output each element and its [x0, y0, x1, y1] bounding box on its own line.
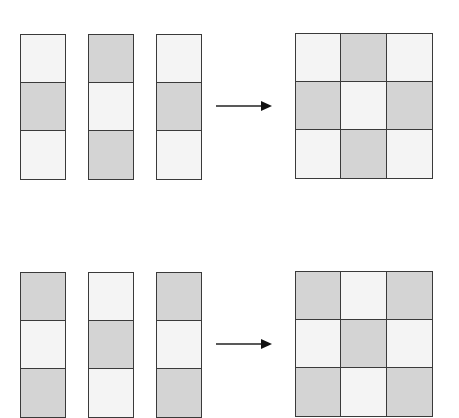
- dark-cell: [89, 35, 133, 83]
- light-cell: [341, 82, 386, 130]
- light-cell: [387, 130, 432, 178]
- strip-column-1-2: [88, 34, 134, 180]
- strip-column-1-3: [156, 34, 202, 180]
- arrow-right-icon: [215, 337, 275, 351]
- light-cell: [341, 368, 386, 416]
- dark-cell: [157, 273, 201, 321]
- dark-cell: [157, 83, 201, 131]
- light-cell: [157, 321, 201, 369]
- dark-cell: [21, 369, 65, 417]
- light-cell: [21, 35, 65, 83]
- dark-cell: [89, 131, 133, 179]
- dark-cell: [296, 368, 341, 416]
- dark-cell: [341, 130, 386, 178]
- dark-cell: [387, 82, 432, 130]
- dark-cell: [21, 273, 65, 321]
- strip-column-2-2: [88, 272, 134, 418]
- dark-cell: [296, 82, 341, 130]
- dark-cell: [21, 83, 65, 131]
- result-grid-1: [295, 33, 433, 179]
- dark-cell: [341, 34, 386, 82]
- dark-cell: [89, 321, 133, 369]
- dark-cell: [296, 272, 341, 320]
- dark-cell: [387, 368, 432, 416]
- dark-cell: [157, 369, 201, 417]
- strip-column-2-1: [20, 272, 66, 418]
- arrow-right-icon: [215, 99, 275, 113]
- light-cell: [21, 321, 65, 369]
- light-cell: [341, 272, 386, 320]
- light-cell: [296, 320, 341, 368]
- result-grid-2: [295, 271, 433, 417]
- light-cell: [387, 34, 432, 82]
- strip-column-2-3: [156, 272, 202, 418]
- dark-cell: [387, 272, 432, 320]
- light-cell: [89, 273, 133, 321]
- light-cell: [157, 131, 201, 179]
- light-cell: [296, 34, 341, 82]
- light-cell: [296, 130, 341, 178]
- strip-column-1-1: [20, 34, 66, 180]
- light-cell: [387, 320, 432, 368]
- light-cell: [157, 35, 201, 83]
- dark-cell: [341, 320, 386, 368]
- light-cell: [89, 83, 133, 131]
- light-cell: [21, 131, 65, 179]
- light-cell: [89, 369, 133, 417]
